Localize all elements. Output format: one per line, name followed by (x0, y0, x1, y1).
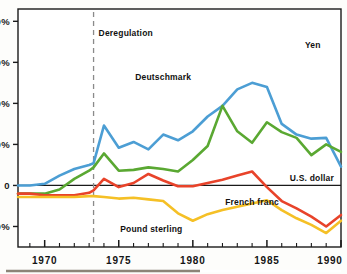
y-tick-label: 50% (0, 139, 10, 150)
x-tick-label: 1985 (254, 255, 279, 266)
y-axis-ticks: 200%150%100%50%0– 50% (0, 16, 18, 232)
plot-border (18, 9, 341, 247)
baseline-label: U.S. dollar (290, 173, 335, 183)
chart-canvas: 200%150%100%50%0– 50% U.S. dollar Deregu… (0, 0, 347, 274)
deregulation-label: Deregulation (99, 28, 153, 38)
y-tick-label: 0 (4, 180, 10, 191)
series-label-deutschmark: Deutschmark (135, 72, 191, 82)
series-label-yen: Yen (305, 40, 321, 50)
series-label-pound-sterling: Pound sterling (120, 224, 182, 234)
x-tick-label: 1970 (32, 255, 57, 266)
series-label-french-franc: French franc (225, 197, 279, 207)
x-tick-label: 1980 (180, 255, 205, 266)
y-tick-label: 200% (0, 16, 10, 27)
x-axis-labels: 19701975198019851990 (32, 255, 343, 266)
x-tick-label: 1975 (106, 255, 131, 266)
plot-frame (18, 9, 341, 247)
y-tick-label: – 50% (0, 221, 10, 232)
currency-performance-chart: 200%150%100%50%0– 50% U.S. dollar Deregu… (0, 0, 347, 274)
y-tick-label: 150% (0, 57, 10, 68)
y-tick-label: 100% (0, 98, 10, 109)
x-tick-label: 1990 (317, 255, 342, 266)
